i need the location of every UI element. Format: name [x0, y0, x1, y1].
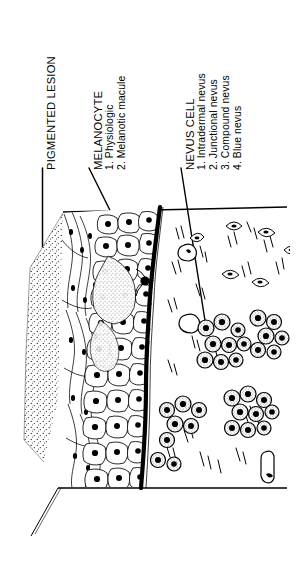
label-melanocyte-item-1: 1. Physiologic [105, 104, 116, 170]
label-nevus-item-4: 4. Blue nevus [233, 106, 244, 170]
specimen-corner-tail [31, 488, 58, 536]
label-nevus-item-2: 2. Junctional nevus [209, 79, 220, 170]
dermis-region [151, 222, 300, 483]
label-nevus-item-3: 3. Compound nevus [221, 75, 232, 170]
label-nevus-cell-title: NEVUS CELL [185, 98, 196, 170]
label-pigmented-lesion: PIGMENTED LESION [46, 56, 57, 170]
label-melanocyte-title: MELANOCYTE [93, 91, 104, 170]
figure-canvas: PIGMENTED LESION MELANOCYTE 1. Physiolog… [0, 0, 306, 566]
melanocyte-dendritic-cell [140, 276, 149, 285]
nevus-cell-nests [151, 310, 290, 471]
elongated-clear-cell [261, 451, 274, 483]
label-melanocyte-item-2: 2. Melanotic macule [117, 76, 128, 170]
clear-cell [178, 244, 196, 261]
skin-surface-stipple [24, 213, 63, 460]
clear-cell [179, 314, 200, 333]
label-nevus-item-1: 1. Intradermal nevus [197, 73, 208, 170]
epidermis-keratinocytes [55, 200, 170, 495]
